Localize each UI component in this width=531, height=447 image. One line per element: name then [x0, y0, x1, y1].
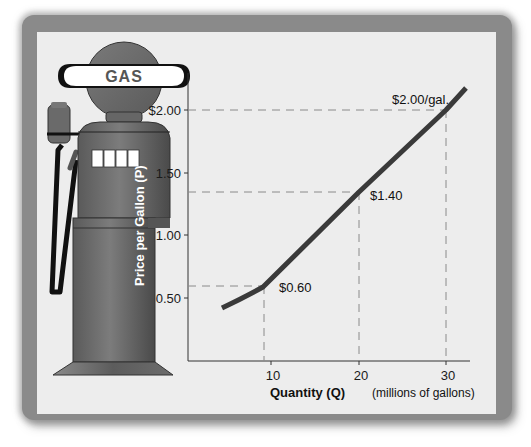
y-tick-label: 1.50: [156, 166, 181, 181]
y-tick-label: 1.00: [156, 228, 181, 243]
x-axis-label: Quantity (Q): [270, 385, 345, 400]
supply-chart: GAS Price per Gallon (P) 0.50 1.00 1.50 …: [0, 0, 531, 447]
y-tick-label: $2.00: [148, 103, 181, 118]
x-tick-label: 30: [441, 368, 455, 383]
axes: [184, 73, 470, 365]
annotation-label: $0.60: [279, 280, 312, 295]
x-axis-units: (millions of gallons): [372, 386, 475, 400]
gas-sign-label: GAS: [105, 68, 143, 85]
supply-curve: [222, 88, 466, 308]
annotation-label: $1.40: [370, 188, 403, 203]
y-tick-label: 0.50: [156, 291, 181, 306]
x-tick-label: 20: [354, 368, 368, 383]
gas-pump-icon: GAS: [47, 42, 190, 375]
x-tick-label: 10: [266, 368, 280, 383]
y-axis-label: Price per Gallon (P): [132, 165, 147, 286]
annotation-label: $2.00/gal.: [392, 92, 449, 107]
